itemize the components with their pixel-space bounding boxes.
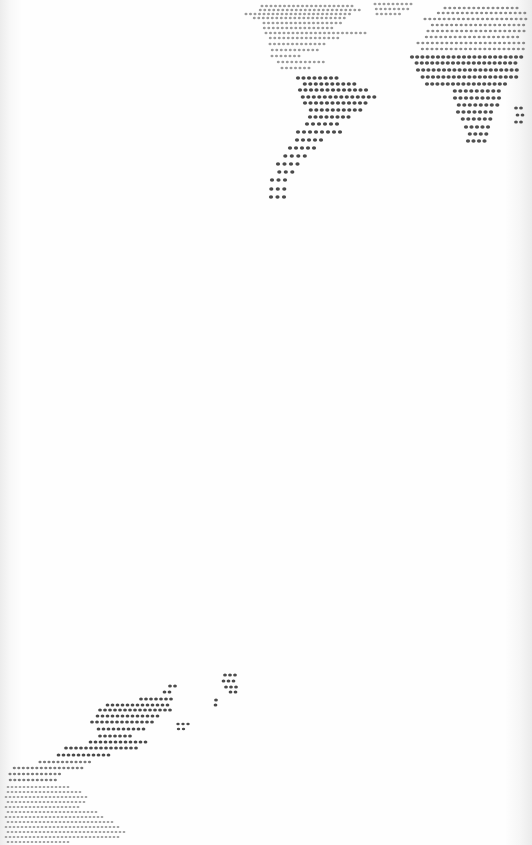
landmass-north-america bbox=[245, 5, 367, 69]
landmass-south-america bbox=[269, 76, 377, 198]
landmass-greenland bbox=[374, 3, 413, 15]
landmass-madagascar bbox=[514, 106, 524, 123]
landmass-europe bbox=[416, 7, 527, 51]
dotted-world-map-photo: Photograph of a white sheet printed with… bbox=[0, 0, 532, 845]
landmass-australia bbox=[5, 786, 126, 843]
landmass-japan bbox=[214, 673, 238, 706]
dotted-world-map bbox=[0, 0, 532, 845]
landmass-africa bbox=[410, 55, 523, 142]
landmass-korea bbox=[176, 723, 189, 731]
landmass-asia-china bbox=[57, 684, 177, 756]
landmass-southeast-asia bbox=[8, 761, 91, 782]
